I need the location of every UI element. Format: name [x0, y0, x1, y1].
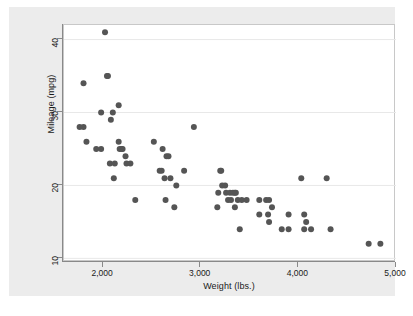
data-point	[159, 168, 165, 174]
data-point	[167, 175, 173, 181]
data-point	[120, 146, 126, 152]
data-point	[81, 124, 87, 130]
data-point	[237, 226, 243, 232]
scatter-chart-figure: 10203040 2,0003,0004,0005,000 Mileage (m…	[0, 0, 413, 316]
data-point-markers	[77, 29, 384, 246]
data-point	[286, 226, 292, 232]
data-point	[222, 182, 228, 188]
data-point	[173, 182, 179, 188]
data-point	[102, 29, 108, 35]
x-tick-mark	[102, 262, 103, 267]
data-point	[366, 241, 372, 247]
data-point	[377, 241, 383, 247]
data-point	[301, 226, 307, 232]
x-tick-mark	[297, 262, 298, 267]
data-point	[105, 73, 111, 79]
data-point	[301, 212, 307, 218]
data-point	[215, 190, 221, 196]
data-point	[228, 197, 234, 203]
data-point	[171, 204, 177, 210]
data-point	[116, 139, 122, 145]
data-point	[279, 226, 285, 232]
y-axis-line	[62, 24, 63, 261]
data-point	[265, 212, 271, 218]
data-point	[218, 168, 224, 174]
data-point	[269, 204, 275, 210]
data-point	[112, 161, 118, 167]
data-point	[191, 124, 197, 130]
data-point	[266, 219, 272, 225]
data-point	[308, 226, 314, 232]
data-point	[256, 212, 262, 218]
data-point	[116, 102, 122, 108]
x-tick-mark	[199, 262, 200, 267]
y-tick-label: 20	[50, 183, 60, 213]
y-axis-title: Mileage (mpg)	[46, 44, 56, 164]
y-tick-label: 10	[50, 256, 60, 286]
data-point	[98, 110, 104, 116]
data-point	[127, 161, 133, 167]
x-tick-label: 2,000	[91, 268, 112, 278]
plot-svg	[64, 25, 396, 262]
data-point	[298, 175, 304, 181]
data-point	[303, 219, 309, 225]
data-point	[81, 80, 87, 86]
data-point	[98, 146, 104, 152]
data-point	[123, 153, 129, 159]
data-point	[108, 117, 114, 123]
data-point	[324, 175, 330, 181]
x-tick-label: 4,000	[287, 268, 308, 278]
data-point	[165, 153, 171, 159]
data-point	[233, 190, 239, 196]
data-point	[132, 197, 138, 203]
x-axis-line	[62, 261, 395, 262]
data-point	[328, 226, 334, 232]
data-point	[160, 146, 166, 152]
data-point	[110, 110, 116, 116]
data-point	[151, 139, 157, 145]
x-tick-label: 5,000	[384, 268, 405, 278]
plot-region	[63, 24, 395, 261]
data-point	[266, 197, 272, 203]
data-point	[111, 175, 117, 181]
graph-region: 10203040 2,0003,0004,0005,000 Mileage (m…	[9, 7, 395, 296]
x-axis-title: Weight (lbs.)	[63, 281, 395, 291]
x-tick-mark	[395, 262, 396, 267]
data-point	[163, 197, 169, 203]
data-point	[83, 139, 89, 145]
data-point	[286, 212, 292, 218]
data-point	[214, 204, 220, 210]
data-point	[244, 197, 250, 203]
x-tick-label: 3,000	[189, 268, 210, 278]
data-point	[256, 197, 262, 203]
data-point	[181, 168, 187, 174]
data-point	[162, 175, 168, 181]
data-point	[232, 204, 238, 210]
gridlines	[64, 40, 396, 259]
